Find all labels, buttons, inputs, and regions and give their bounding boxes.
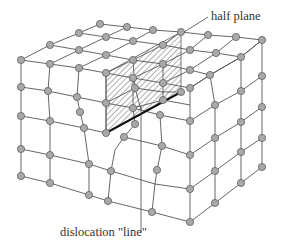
half-plane-leader (181, 17, 208, 34)
lattice-atoms (17, 20, 265, 225)
half-plane-label: half plane (211, 9, 261, 23)
dislocation-line-label: dislocation "line" (60, 225, 147, 239)
extra-half-plane (106, 32, 181, 133)
edge-dislocation-diagram: half plane dislocation "line" (0, 0, 282, 246)
